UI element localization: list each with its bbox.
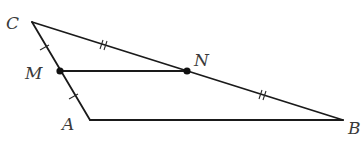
point-N-dot <box>183 67 190 74</box>
geometry-diagram: C M N A B <box>0 0 363 147</box>
label-M: M <box>24 63 43 83</box>
label-C: C <box>6 13 19 33</box>
label-N: N <box>193 50 210 70</box>
label-A: A <box>60 114 74 134</box>
point-M-dot <box>56 67 63 74</box>
label-B: B <box>347 118 361 138</box>
